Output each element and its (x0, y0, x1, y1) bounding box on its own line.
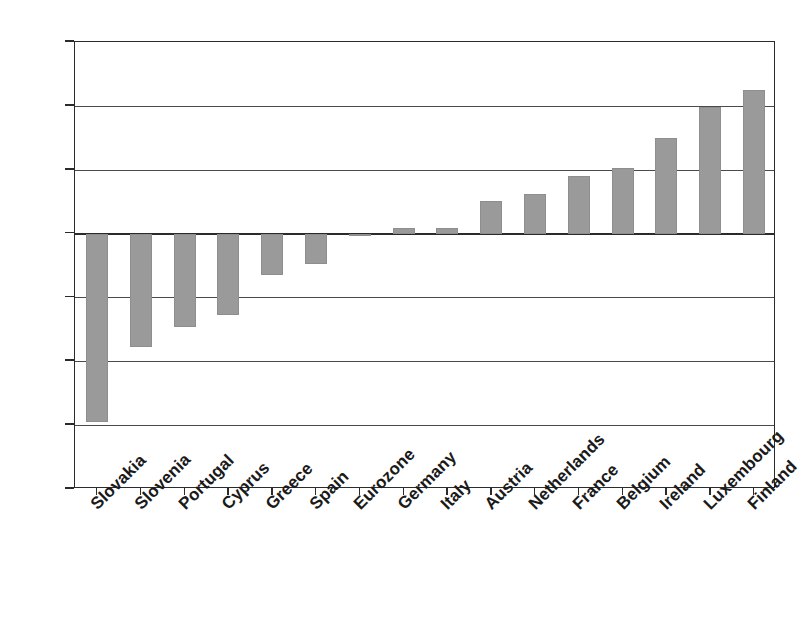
y-tick-mark (65, 359, 74, 361)
bar (261, 234, 283, 276)
bar (349, 234, 371, 236)
x-tick-mark (140, 488, 141, 495)
bar (217, 234, 239, 315)
x-tick-mark (403, 488, 404, 495)
x-tick-mark (622, 488, 623, 495)
x-tick-mark (709, 488, 710, 495)
x-tick-mark (227, 488, 228, 495)
y-tick-mark (65, 487, 74, 489)
y-tick-mark (65, 232, 74, 234)
x-tick-mark (359, 488, 360, 495)
bar (480, 201, 502, 234)
y-tick-mark (65, 104, 74, 106)
gridline (75, 361, 774, 362)
bar (393, 228, 415, 233)
bar-chart: 3020100−10−20−30−40 SlovakiaSloveniaPort… (0, 0, 804, 623)
y-tick-mark (65, 168, 74, 170)
bar (568, 176, 590, 233)
bar (612, 168, 634, 233)
bar (130, 234, 152, 348)
x-tick-mark (446, 488, 447, 495)
x-tick-mark (534, 488, 535, 495)
gridline (75, 106, 774, 107)
bar (436, 228, 458, 233)
y-axis-tick-labels: 3020100−10−20−30−40 (0, 0, 66, 623)
x-tick-mark (271, 488, 272, 495)
bar (174, 234, 196, 328)
x-tick-mark (665, 488, 666, 495)
x-tick-mark (753, 488, 754, 495)
y-tick-mark (65, 296, 74, 298)
bar (305, 234, 327, 264)
x-tick-mark (96, 488, 97, 495)
y-tick-mark (65, 40, 74, 42)
bar (655, 138, 677, 234)
x-tick-mark (578, 488, 579, 495)
bar (699, 107, 721, 233)
y-tick-mark (65, 423, 74, 425)
x-tick-mark (315, 488, 316, 495)
bar (743, 90, 765, 234)
bar (86, 234, 108, 422)
x-tick-mark (490, 488, 491, 495)
gridline (75, 425, 774, 426)
bar (524, 194, 546, 234)
x-tick-mark (184, 488, 185, 495)
plot-area (74, 41, 775, 488)
